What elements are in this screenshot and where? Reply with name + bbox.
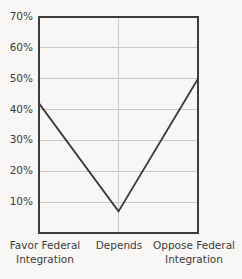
x-tick-label-oppose-line1: Oppose Federal	[153, 239, 235, 251]
x-tick-label-oppose-line2: Integration	[165, 253, 223, 265]
y-tick-label-50: 50%	[10, 72, 33, 84]
x-tick-label-favor-line2: Integration	[16, 253, 74, 265]
chart-container: 70% 60% 50% 40% 30% 20% 10% Favor Federa…	[0, 0, 242, 279]
y-tick-label-70: 70%	[10, 10, 33, 22]
x-tick-label-favor-line1: Favor Federal	[10, 239, 81, 251]
y-tick-label-60: 60%	[10, 41, 33, 53]
y-tick-label-20: 20%	[10, 164, 33, 176]
y-tick-label-10: 10%	[10, 195, 33, 207]
x-tick-label-depends: Depends	[96, 239, 142, 251]
y-tick-label-40: 40%	[10, 103, 33, 115]
line-chart: 70% 60% 50% 40% 30% 20% 10% Favor Federa…	[0, 0, 242, 279]
y-tick-label-30: 30%	[10, 133, 33, 145]
